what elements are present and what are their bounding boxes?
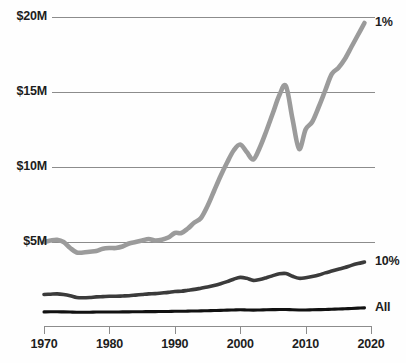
- x-axis-tick-label: 2000: [220, 337, 260, 351]
- x-axis-tick-label: 2010: [286, 337, 326, 351]
- x-axis-tick-label: 1980: [89, 337, 129, 351]
- series-line-10pct: [44, 262, 364, 298]
- series-label: 10%: [375, 254, 399, 268]
- y-axis-tick-label: $5M: [23, 234, 47, 248]
- series-label: All: [375, 300, 390, 314]
- gridlines-group: [52, 18, 375, 243]
- chart-container: $5M$10M$15M$20M 197019801990200020102020…: [0, 0, 406, 363]
- x-axis-tick-label: 2020: [351, 337, 391, 351]
- x-axis-tick-label: 1970: [24, 337, 64, 351]
- y-axis-tick-label: $20M: [17, 9, 47, 23]
- y-axis-tick-label: $10M: [17, 159, 47, 173]
- chart-plot-area: [0, 0, 406, 363]
- x-axis-ticks-group: [45, 326, 372, 334]
- series-label: 1%: [375, 15, 393, 29]
- series-line-1pct: [44, 23, 364, 253]
- x-axis-tick-label: 1990: [155, 337, 195, 351]
- series-line-all: [44, 308, 364, 312]
- y-axis-tick-label: $15M: [17, 84, 47, 98]
